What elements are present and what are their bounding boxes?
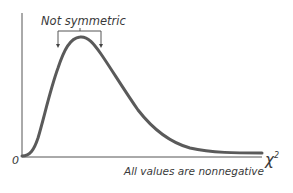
density-curve xyxy=(22,37,262,156)
annotation-not-symmetric: Not symmetric xyxy=(41,14,127,28)
origin-label: 0 xyxy=(12,154,19,167)
x-axis-label: χ2 xyxy=(264,151,279,169)
annotation-nonnegative: All values are nonnegative xyxy=(123,165,264,177)
chi-superscript: 2 xyxy=(274,151,279,160)
chi-square-chart: Not symmetric 0 χ2 All values are nonneg… xyxy=(0,0,293,193)
